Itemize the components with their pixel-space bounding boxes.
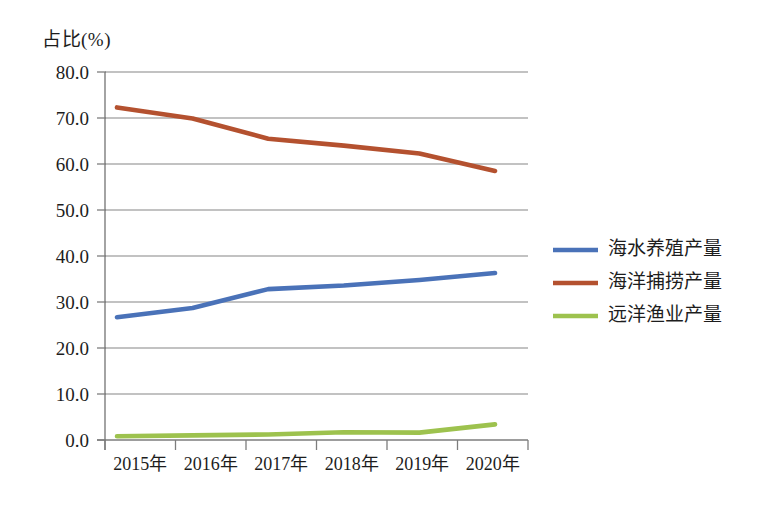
y-tick-label: 10.0	[56, 384, 89, 405]
y-tick-label: 50.0	[56, 200, 89, 221]
legend-label-3: 远洋渔业产量	[608, 304, 722, 325]
x-tick-label: 2020年	[466, 454, 520, 474]
y-tick-label: 70.0	[56, 108, 89, 129]
chart-container: 占比(%) 0.010.020.030.040.050.060.070.080.…	[0, 0, 761, 515]
x-tick-label: 2016年	[184, 454, 238, 474]
x-tick-label: 2017年	[254, 454, 308, 474]
y-tick-label: 80.0	[56, 62, 89, 83]
data-series-group	[117, 107, 495, 436]
x-tick-label: 2015年	[113, 454, 167, 474]
y-tick-label: 40.0	[56, 246, 89, 267]
y-tick-label: 30.0	[56, 292, 89, 313]
series-line-1	[117, 273, 495, 317]
line-chart-plot: 0.010.020.030.040.050.060.070.080.0 2015…	[0, 0, 761, 515]
gridlines-group	[105, 72, 528, 394]
x-tick-label: 2019年	[395, 454, 449, 474]
series-line-3	[117, 424, 495, 436]
x-axis-tick-labels: 2015年2016年2017年2018年2019年2020年	[113, 454, 520, 474]
legend-label-1: 海水养殖产量	[608, 238, 722, 259]
legend: 海水养殖产量海洋捕捞产量远洋渔业产量	[553, 238, 722, 325]
axes-group	[97, 72, 528, 450]
legend-label-2: 海洋捕捞产量	[608, 271, 722, 292]
series-line-2	[117, 107, 495, 170]
y-axis-tick-labels: 0.010.020.030.040.050.060.070.080.0	[56, 62, 89, 451]
y-tick-label: 60.0	[56, 154, 89, 175]
y-tick-label: 0.0	[65, 430, 89, 451]
x-tick-label: 2018年	[325, 454, 379, 474]
tickmarks-group	[97, 72, 528, 450]
y-tick-label: 20.0	[56, 338, 89, 359]
